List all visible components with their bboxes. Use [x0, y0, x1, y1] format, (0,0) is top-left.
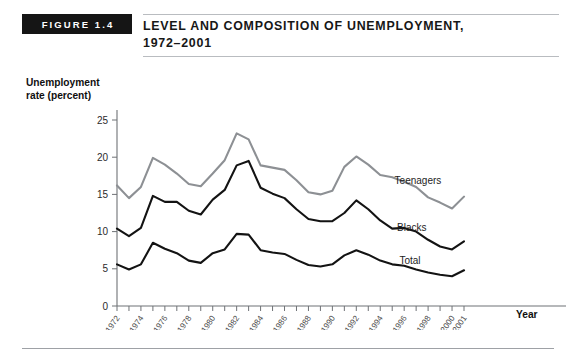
y-axis-tick-label: 15 [97, 189, 109, 200]
y-axis-tick-label: 5 [102, 263, 108, 274]
figure-header: FIGURE 1.4 LEVEL AND COMPOSITION OF UNEM… [0, 0, 576, 62]
x-axis-tick-label: 1980 [200, 314, 218, 330]
x-axis-tick-label: 1984 [247, 314, 265, 330]
y-axis-tick-label: 10 [97, 226, 109, 237]
series-label-blacks: Blacks [397, 222, 426, 233]
figure-title-line-1: LEVEL AND COMPOSITION OF UNEMPLOYMENT, [143, 18, 563, 35]
y-axis-title-line-1: Unemployment [26, 77, 100, 88]
figure-number-badge: FIGURE 1.4 [22, 14, 132, 34]
header-rule-top [143, 14, 559, 15]
x-axis-tick-label: 1972 [104, 314, 122, 330]
x-axis-tick-label: 1988 [295, 314, 313, 330]
y-axis-tick-label: 25 [97, 115, 109, 126]
x-axis-tick-label: 1974 [128, 314, 146, 330]
x-axis-tick-label: 1986 [271, 314, 289, 330]
x-axis-tick-label: 1976 [152, 314, 170, 330]
y-axis-title-line-2: rate (percent) [26, 90, 91, 101]
series-label-teenagers: Teenagers [395, 175, 442, 186]
x-axis-tick-label: 1994 [367, 314, 385, 330]
unemployment-line-chart: Unemployment rate (percent) 0510152025 1… [0, 62, 576, 330]
figure-title-line-2: 1972–2001 [143, 35, 563, 52]
y-axis-title: Unemployment rate (percent) [26, 77, 100, 101]
chart-area: Unemployment rate (percent) 0510152025 1… [0, 62, 576, 330]
x-axis-tick-label: 1998 [415, 314, 433, 330]
x-axis-tick-label: 1982 [223, 314, 241, 330]
x-axis: 1972197419761978198019821984198619881990… [104, 306, 566, 330]
figure-container: FIGURE 1.4 LEVEL AND COMPOSITION OF UNEM… [0, 0, 576, 364]
x-axis-title: Year [516, 309, 538, 320]
series-label-total: Total [399, 255, 420, 266]
series-line-teenagers [117, 133, 464, 208]
y-axis: 0510152025 [97, 110, 117, 312]
header-rule-bottom [143, 56, 559, 57]
x-axis-tick-label: 1992 [343, 314, 361, 330]
x-axis-tick-label: 1990 [319, 314, 337, 330]
x-axis-tick-label: 1996 [391, 314, 409, 330]
x-axis-tick-label: 1978 [176, 314, 194, 330]
y-axis-tick-label: 0 [102, 301, 108, 312]
footer-rule [22, 348, 554, 349]
figure-title: LEVEL AND COMPOSITION OF UNEMPLOYMENT, 1… [143, 18, 563, 51]
y-axis-tick-label: 20 [97, 152, 109, 163]
